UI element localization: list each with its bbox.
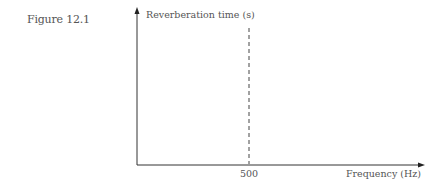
y-axis-label: Reverberation time (s) bbox=[146, 9, 255, 20]
x-tick-500: 500 bbox=[240, 168, 258, 179]
x-axis-label: Frequency (Hz) bbox=[346, 168, 421, 179]
x-axis-arrow-icon bbox=[418, 163, 425, 168]
y-axis-arrow-icon bbox=[135, 7, 140, 14]
chart-canvas: Reverberation time (s) 500 Frequency (Hz… bbox=[0, 0, 440, 179]
